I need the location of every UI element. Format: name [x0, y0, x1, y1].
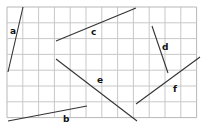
diagram-canvas: a b c d e f: [0, 0, 206, 124]
segment-f: [136, 57, 200, 104]
segment-label-c: c: [91, 28, 96, 37]
segment-b: [8, 106, 87, 121]
grid-with-segments: [0, 0, 206, 124]
segment-label-a: a: [10, 27, 16, 36]
segment-label-b: b: [63, 115, 69, 124]
segment-label-f: f: [173, 85, 177, 94]
segment-e: [56, 59, 137, 121]
segment-label-d: d: [162, 43, 168, 52]
segment-label-e: e: [97, 76, 103, 85]
segment-a: [8, 7, 23, 72]
